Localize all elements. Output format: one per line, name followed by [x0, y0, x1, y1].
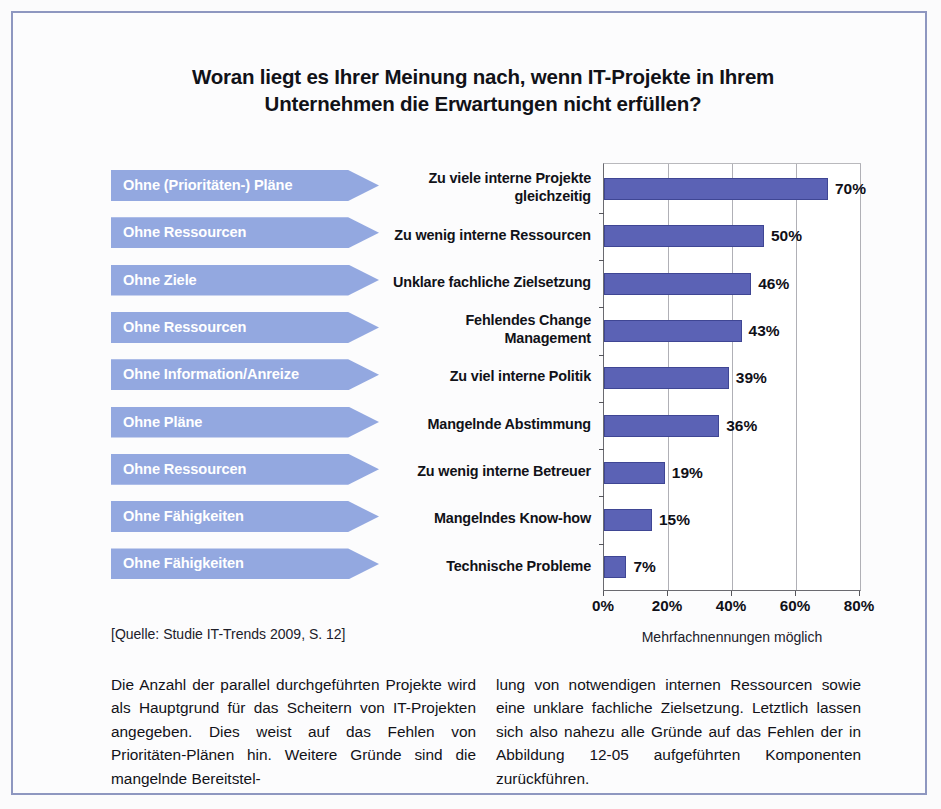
- x-axis-tick: [795, 591, 796, 596]
- category-label-line: gleichzeitig: [385, 188, 591, 206]
- y-axis-tick: [599, 355, 604, 356]
- bar-value-label: 39%: [736, 367, 767, 389]
- arrow-label-text: Ohne Ressourcen: [123, 217, 246, 248]
- x-axis-tick-label: 80%: [844, 597, 874, 614]
- arrow-label-text: Ohne Ziele: [123, 265, 197, 296]
- bar-value-label: 7%: [633, 556, 655, 578]
- bar: [604, 462, 665, 484]
- page-title: Woran liegt es Ihrer Meinung nach, wenn …: [133, 63, 833, 117]
- category-label: Zu wenig interne Betreuer: [385, 463, 591, 481]
- arrow-label-text: Ohne Fähigkeiten: [123, 501, 244, 532]
- chart-plot-area: 70%50%46%43%39%36%19%15%7%: [603, 163, 861, 591]
- arrow-label-text: Ohne Ressourcen: [123, 312, 246, 343]
- axis-note: Mehrfachnennungen möglich: [603, 629, 861, 645]
- bar-value-label: 43%: [749, 320, 780, 342]
- arrow-label-row: Ohne Pläne: [111, 407, 379, 438]
- arrow-label-row: Ohne Ressourcen: [111, 454, 379, 485]
- arrow-label-row: Ohne Ressourcen: [111, 312, 379, 343]
- arrow-labels-column: Ohne (Prioritäten-) PläneOhne Ressourcen…: [111, 170, 379, 585]
- x-axis-tick-label: 40%: [716, 597, 746, 614]
- bar: [604, 320, 742, 342]
- category-label: Zu wenig interne Ressourcen: [385, 227, 591, 245]
- arrow-label-row: Ohne Fähigkeiten: [111, 501, 379, 532]
- x-axis-tick: [859, 591, 860, 596]
- bar-value-label: 19%: [672, 462, 703, 484]
- y-axis-tick: [599, 260, 604, 261]
- y-axis-tick: [599, 307, 604, 308]
- y-axis-tick: [599, 544, 604, 545]
- arrow-label-row: Ohne (Prioritäten-) Pläne: [111, 170, 379, 201]
- category-label-line: Technische Probleme: [385, 558, 591, 576]
- x-axis-tick-label: 0%: [592, 597, 614, 614]
- category-label: Mangelndes Know-how: [385, 510, 591, 528]
- bar: [604, 273, 751, 295]
- x-axis: 0%20%40%60%80%: [603, 595, 861, 617]
- bar: [604, 367, 729, 389]
- category-label: Unklare fachliche Zielsetzung: [385, 274, 591, 292]
- page-title-line-2: Unternehmen die Erwartungen nicht erfüll…: [133, 90, 833, 117]
- gridline-vertical: [860, 164, 861, 590]
- bar-value-label: 15%: [659, 509, 690, 531]
- y-axis-tick: [599, 402, 604, 403]
- x-axis-tick-label: 60%: [780, 597, 810, 614]
- category-label-line: Unklare fachliche Zielsetzung: [385, 274, 591, 292]
- arrow-label-row: Ohne Information/Anreize: [111, 359, 379, 390]
- x-axis-tick: [603, 591, 604, 596]
- bar: [604, 178, 828, 200]
- figure-page: Woran liegt es Ihrer Meinung nach, wenn …: [0, 0, 941, 809]
- category-label: Fehlendes ChangeManagement: [385, 312, 591, 347]
- arrow-label-row: Ohne Ziele: [111, 265, 379, 296]
- page-title-line-1: Woran liegt es Ihrer Meinung nach, wenn …: [133, 63, 833, 90]
- arrow-label-text: Ohne Information/Anreize: [123, 359, 299, 390]
- y-axis-tick: [599, 496, 604, 497]
- category-label: Technische Probleme: [385, 558, 591, 576]
- bar: [604, 225, 764, 247]
- body-text: Die Anzahl der parallel durchgeführten P…: [111, 673, 861, 790]
- body-paragraph-left: Die Anzahl der parallel durchgeführten P…: [111, 673, 476, 790]
- category-labels-column: Zu viele interne ProjektegleichzeitigZu …: [385, 163, 591, 593]
- arrow-label-text: Ohne Ressourcen: [123, 454, 246, 485]
- bar: [604, 415, 719, 437]
- category-label-line: Fehlendes Change: [385, 312, 591, 330]
- category-label-line: Zu wenig interne Betreuer: [385, 463, 591, 481]
- category-label-line: Mangelndes Know-how: [385, 510, 591, 528]
- y-axis-tick: [599, 213, 604, 214]
- body-text-left-column: Die Anzahl der parallel durchgeführten P…: [111, 673, 476, 790]
- category-label: Mangelnde Abstimmung: [385, 416, 591, 434]
- arrow-label-text: Ohne (Prioritäten-) Pläne: [123, 170, 292, 201]
- bar: [604, 556, 626, 578]
- arrow-label-text: Ohne Fähigkeiten: [123, 548, 244, 579]
- arrow-label-row: Ohne Fähigkeiten: [111, 548, 379, 579]
- category-label-line: Zu viel interne Politik: [385, 368, 591, 386]
- bar-value-label: 50%: [771, 225, 802, 247]
- arrow-label-row: Ohne Ressourcen: [111, 217, 379, 248]
- source-note: [Quelle: Studie IT-Trends 2009, S. 12]: [111, 626, 346, 642]
- x-axis-tick: [667, 591, 668, 596]
- category-label-line: Zu wenig interne Ressourcen: [385, 227, 591, 245]
- bar-value-label: 36%: [726, 415, 757, 437]
- x-axis-tick: [731, 591, 732, 596]
- bar-value-label: 70%: [835, 178, 866, 200]
- figure-frame: Woran liegt es Ihrer Meinung nach, wenn …: [11, 11, 927, 795]
- category-label-line: Zu viele interne Projekte: [385, 170, 591, 188]
- y-axis-tick: [599, 449, 604, 450]
- category-label: Zu viele interne Projektegleichzeitig: [385, 170, 591, 205]
- category-label-line: Management: [385, 330, 591, 348]
- bar-value-label: 46%: [758, 273, 789, 295]
- bar: [604, 509, 652, 531]
- x-axis-tick-label: 20%: [652, 597, 682, 614]
- category-label-line: Mangelnde Abstimmung: [385, 416, 591, 434]
- arrow-label-text: Ohne Pläne: [123, 407, 202, 438]
- category-label: Zu viel interne Politik: [385, 368, 591, 386]
- body-text-right-column: lung von notwendigen internen Ressourcen…: [496, 673, 861, 790]
- body-paragraph-right: lung von notwendigen internen Ressourcen…: [496, 673, 861, 790]
